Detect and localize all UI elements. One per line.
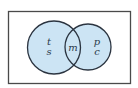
label-s: s (46, 46, 51, 57)
label-c: c (94, 46, 100, 57)
venn-diagram: t s m p c (0, 0, 138, 88)
label-m: m (68, 42, 77, 53)
